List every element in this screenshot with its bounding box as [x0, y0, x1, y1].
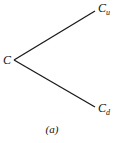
down-node-subscript: d — [106, 108, 111, 117]
down-node-label: Cd — [98, 101, 111, 117]
up-node-label: Cu — [98, 1, 110, 17]
up-branch-line — [14, 11, 95, 60]
figure-caption: (a) — [46, 123, 59, 136]
root-node-label: C — [3, 53, 12, 67]
down-branch-line — [14, 60, 95, 107]
up-node-subscript: u — [106, 8, 110, 17]
binomial-tree-diagram: C Cu Cd (a) — [0, 0, 116, 143]
